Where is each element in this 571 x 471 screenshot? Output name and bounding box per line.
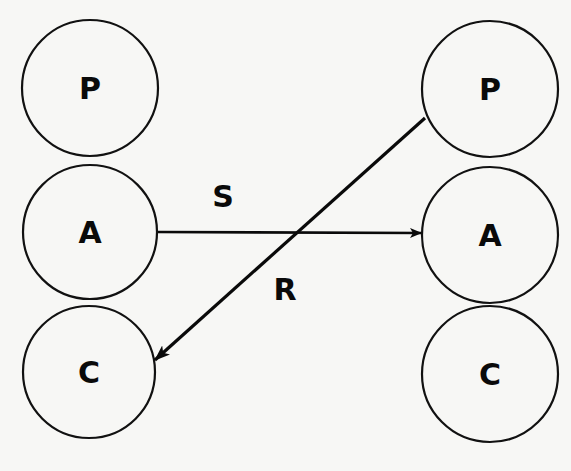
left-child-node: C	[23, 306, 155, 438]
right-parent-letter: P	[479, 72, 501, 107]
stimulus-label: S	[212, 179, 234, 214]
left-parent-node: P	[22, 20, 158, 156]
right-adult-letter: A	[478, 218, 502, 253]
right-adult-node: A	[422, 167, 558, 303]
left-adult-node: A	[23, 165, 157, 299]
left-adult-letter: A	[78, 215, 102, 250]
left-person-ego-states: P A C	[22, 20, 158, 438]
response-arrow	[155, 118, 425, 360]
left-child-letter: C	[78, 355, 100, 390]
response-label: R	[273, 272, 296, 307]
response-edge: R	[155, 118, 425, 360]
stimulus-edge: S	[158, 179, 421, 234]
right-person-ego-states: P A C	[422, 21, 558, 442]
left-parent-letter: P	[79, 71, 101, 106]
right-child-node: C	[422, 306, 558, 442]
right-parent-node: P	[422, 21, 558, 157]
pac-transaction-diagram: P A C P A C	[0, 0, 571, 471]
right-child-letter: C	[479, 357, 501, 392]
stimulus-arrow	[158, 232, 421, 233]
